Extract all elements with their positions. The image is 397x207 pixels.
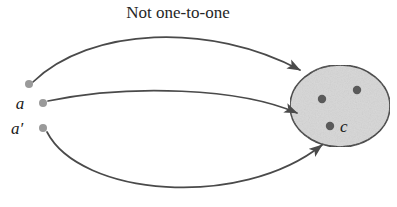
arrow-top: [33, 37, 300, 82]
label-a: a: [16, 94, 25, 113]
codomain-dot-upper-left: [318, 95, 326, 103]
label-a-prime: a′: [11, 119, 24, 138]
not-one-to-one-figure: Not one-to-one a a′ c: [0, 0, 397, 207]
domain-dot-a-prime: [39, 124, 47, 132]
codomain-dot-c: [326, 122, 334, 130]
domain-dot-a: [39, 99, 47, 107]
figure-title: Not one-to-one: [126, 3, 229, 22]
mapping-arrows: [33, 37, 322, 187]
domain-points: [25, 80, 47, 132]
arrow-bottom: [47, 132, 322, 187]
diagram-canvas: Not one-to-one a a′ c: [0, 0, 397, 207]
label-c: c: [340, 117, 348, 136]
codomain-dot-upper-right: [353, 86, 361, 94]
arrow-middle: [48, 91, 297, 113]
domain-dot-top: [25, 80, 33, 88]
